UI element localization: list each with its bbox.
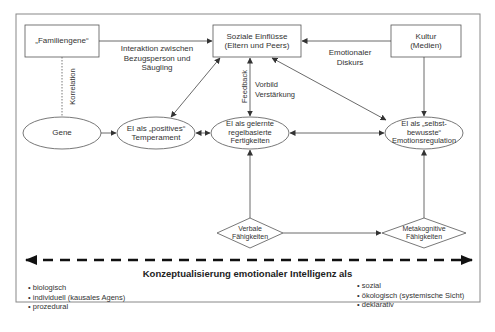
right-item-deklarativ: • deklarativ bbox=[357, 300, 464, 310]
fertigkeiten-label-line3: Fertigkeiten bbox=[230, 137, 269, 146]
temperament-label-line2: Temperament bbox=[132, 133, 181, 143]
interaktion-line1: Interaktion zwischen bbox=[112, 44, 202, 54]
soziale-label-line2: (Eltern und Peers) bbox=[225, 41, 290, 51]
temperament-node: EI als „positives“ Temperament bbox=[117, 117, 195, 149]
emotionsregulation-node: EI als „selbst- bewusste“ Emotionsregula… bbox=[385, 117, 463, 149]
right-item-oekologisch: • ökologisch (systemische Sicht) bbox=[357, 291, 464, 301]
verbale-node: Verbale Fähigkeiten bbox=[217, 218, 283, 248]
gene-label: Gene bbox=[52, 128, 72, 138]
diagram-canvas: „Familiengene“ Soziale Einflüsse (Eltern… bbox=[0, 0, 495, 332]
kultur-label-line2: (Medien) bbox=[410, 41, 442, 51]
kultur-label-line1: Kultur bbox=[416, 32, 437, 42]
right-concept-list: • sozial • ökologisch (systemische Sicht… bbox=[357, 281, 464, 310]
familiengene-label: „Familiengene“ bbox=[35, 36, 88, 46]
feedback-label: Feedback bbox=[240, 67, 249, 107]
vorbild-label: Vorbild Verstärkung bbox=[255, 80, 295, 99]
axis-title: Konzeptualisierung emotionaler Intellige… bbox=[0, 268, 495, 279]
kultur-node: Kultur (Medien) bbox=[391, 25, 461, 57]
right-item-sozial: • sozial bbox=[357, 281, 464, 291]
left-item-biologisch: • biologisch bbox=[28, 283, 125, 293]
soziale-node: Soziale Einflüsse (Eltern und Peers) bbox=[213, 25, 301, 57]
emotionsregulation-label-line3: Emotionsregulation bbox=[392, 137, 456, 146]
emotionaler-line1: Emotionaler bbox=[320, 48, 380, 58]
left-concept-list: • biologisch • individuell (kausales Age… bbox=[28, 283, 125, 312]
vorbild-line1: Vorbild bbox=[255, 80, 295, 90]
interaktion-line3: Säugling bbox=[112, 63, 202, 73]
metakognitive-node: Metakognitive Fähigkeiten bbox=[382, 218, 466, 248]
metakognitive-label-line1: Metakognitive bbox=[402, 225, 445, 234]
emotionaler-line2: Diskurs bbox=[320, 58, 380, 68]
verbale-label-line1: Verbale bbox=[238, 225, 262, 234]
emotionaler-diskurs-label: Emotionaler Diskurs bbox=[320, 48, 380, 67]
interaktion-label: Interaktion zwischen Bezugsperson und Sä… bbox=[112, 44, 202, 73]
metakognitive-label-line2: Fähigkeiten bbox=[406, 233, 442, 242]
left-item-individuell: • individuell (kausales Agens) bbox=[28, 293, 125, 303]
korrelation-label: Korrelation bbox=[68, 67, 77, 107]
vorbild-line2: Verstärkung bbox=[255, 90, 295, 100]
gene-node: Gene bbox=[23, 117, 101, 149]
fertigkeiten-node: EI als gelernte regelbasierte Fertigkeit… bbox=[211, 117, 289, 149]
temperament-label-line1: EI als „positives“ bbox=[127, 124, 186, 134]
interaktion-line2: Bezugsperson und bbox=[112, 54, 202, 64]
left-item-prozedural: • prozedural bbox=[28, 302, 125, 312]
soziale-label-line1: Soziale Einflüsse bbox=[227, 32, 288, 42]
verbale-label-line2: Fähigkeiten bbox=[232, 233, 268, 242]
familiengene-node: „Familiengene“ bbox=[25, 25, 99, 57]
